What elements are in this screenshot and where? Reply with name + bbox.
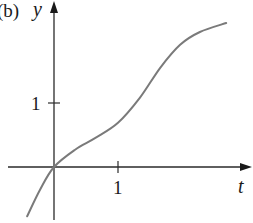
x-axis-arrow-icon (240, 163, 252, 171)
y-axis-arrow-icon (50, 1, 58, 13)
graph-figure: (b) y t 1 1 (0, 0, 253, 223)
y-tick-label-1: 1 (31, 93, 41, 114)
panel-label: (b) (0, 0, 19, 22)
data-curve (27, 23, 226, 216)
y-axis-label: y (31, 0, 42, 21)
x-tick-label-1: 1 (113, 177, 123, 198)
x-axis-label: t (238, 175, 244, 197)
